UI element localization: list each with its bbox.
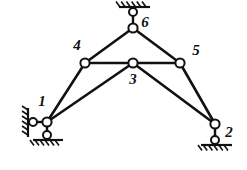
diagram-canvas: 123456 [0, 0, 247, 170]
joint-5 [175, 58, 184, 67]
member-1-3 [47, 63, 133, 122]
member-5-2 [180, 63, 215, 124]
node-label-3: 3 [128, 71, 137, 87]
joint-2 [210, 119, 219, 128]
joint-4 [80, 58, 89, 67]
node-label-4: 4 [72, 37, 81, 53]
support-bottom-node-2-joint [211, 136, 219, 144]
joint-3 [128, 58, 137, 67]
member-3-2 [133, 63, 215, 124]
support-top-node-6-joint [129, 8, 137, 16]
support-top-node-6-hatch-tick [116, 2, 120, 8]
joint-1 [42, 117, 51, 126]
joint-6 [128, 23, 137, 32]
support-left-node-1-joint [29, 118, 37, 126]
node-label-6: 6 [141, 14, 149, 30]
node-label-1: 1 [38, 93, 46, 109]
node-label-2: 2 [224, 124, 233, 140]
member-1-4 [47, 63, 85, 122]
truss-diagram: 123456 [0, 0, 247, 170]
supports-layer [22, 2, 232, 151]
labels-layer: 123456 [38, 14, 233, 140]
node-label-5: 5 [192, 42, 200, 58]
support-bottom-node-1-joint [43, 131, 51, 139]
member-4-6 [85, 28, 133, 63]
member-6-5 [133, 28, 180, 63]
